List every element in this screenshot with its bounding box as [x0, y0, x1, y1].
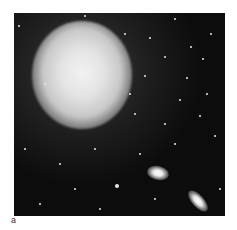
star — [206, 93, 208, 95]
star — [129, 93, 131, 95]
astronomical-photo — [14, 13, 225, 216]
star — [144, 75, 146, 77]
star — [94, 148, 96, 150]
star — [154, 198, 156, 200]
star — [174, 18, 176, 20]
galaxy-upper — [146, 164, 170, 182]
star — [99, 208, 101, 210]
star — [219, 188, 221, 190]
galaxy-lower — [185, 187, 211, 214]
star — [59, 163, 61, 165]
star — [199, 115, 201, 117]
star — [84, 15, 86, 17]
star — [134, 113, 136, 115]
star — [202, 58, 204, 60]
star — [18, 25, 20, 27]
bright-glow — [32, 21, 132, 129]
star — [164, 123, 166, 125]
star — [44, 83, 46, 85]
star — [24, 148, 26, 150]
star — [210, 33, 212, 35]
star — [174, 143, 176, 145]
star — [149, 37, 151, 39]
star — [139, 153, 141, 155]
star — [186, 77, 188, 79]
star — [39, 203, 41, 205]
star — [214, 135, 216, 137]
star — [164, 56, 166, 58]
star — [190, 46, 192, 48]
star — [124, 33, 126, 35]
star — [179, 99, 181, 101]
star — [115, 184, 119, 188]
panel-label: a — [11, 215, 16, 225]
star — [74, 188, 76, 190]
